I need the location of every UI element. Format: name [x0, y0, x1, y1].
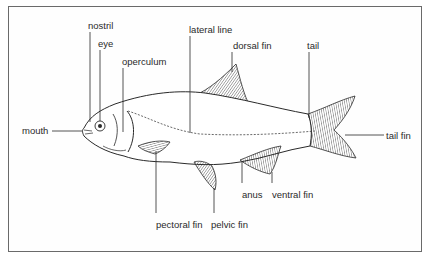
label-lateral-line: lateral line: [189, 25, 232, 35]
label-pectoral-fin: pectoral fin: [156, 220, 202, 230]
label-nostril: nostril: [88, 21, 113, 31]
label-ventral-fin: ventral fin: [272, 190, 313, 200]
label-dorsal-fin: dorsal fin: [233, 41, 272, 51]
tail-fin-shape: [308, 96, 356, 158]
label-operculum: operculum: [122, 57, 166, 67]
label-mouth: mouth: [22, 126, 48, 136]
label-pelvic-fin: pelvic fin: [211, 220, 248, 230]
label-anus: anus: [242, 190, 263, 200]
label-tail-fin: tail fin: [386, 131, 411, 141]
label-tail: tail: [307, 41, 319, 51]
pelvic-fin-shape: [194, 161, 216, 190]
label-eye: eye: [98, 39, 113, 49]
